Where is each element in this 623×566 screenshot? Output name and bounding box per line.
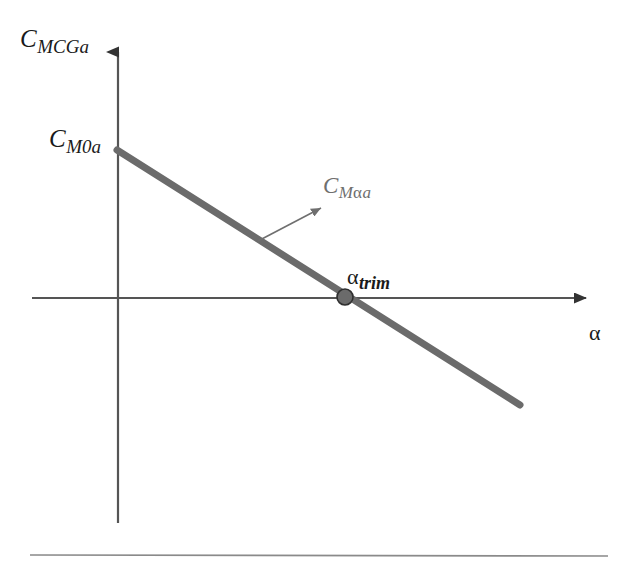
y-axis-label-subscript: MCGa — [37, 36, 89, 57]
slope-annotation-label: CMαa — [323, 174, 371, 201]
y-intercept-label-base: C — [49, 125, 66, 152]
diagram-canvas — [0, 0, 623, 566]
slope-pointer-arrow — [258, 208, 321, 241]
trim-point-label-base: α — [347, 264, 359, 289]
y-axis-label-base: C — [20, 25, 37, 52]
slope-annotation-subscript-alpha: α — [353, 183, 362, 202]
x-axis-label: α — [589, 322, 601, 344]
footer-rule — [30, 555, 608, 556]
slope-annotation-subscript-m: M — [338, 183, 353, 202]
trim-point-label-subscript: trim — [359, 273, 391, 293]
y-intercept-label: CM0a — [49, 126, 101, 156]
moment-curve — [117, 150, 520, 405]
figure-root: CMCGa CM0a CMαa αtrim α — [0, 0, 623, 566]
y-intercept-label-subscript: M0a — [66, 136, 101, 157]
y-axis-label: CMCGa — [20, 26, 89, 56]
trim-point-label: αtrim — [347, 266, 390, 292]
slope-annotation-base: C — [323, 173, 338, 198]
x-axis-label-base: α — [589, 320, 601, 345]
slope-annotation-subscript-a: a — [362, 183, 371, 202]
